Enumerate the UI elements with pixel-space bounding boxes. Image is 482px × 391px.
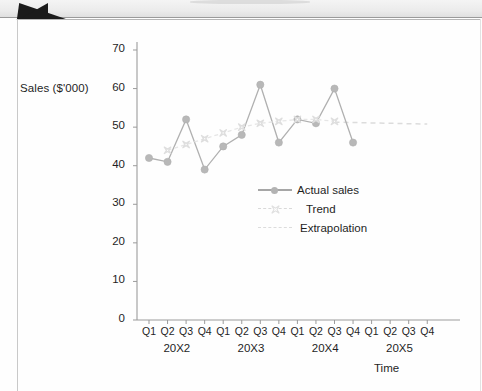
actual-sales-point bbox=[331, 85, 338, 92]
actual-sales-point bbox=[220, 143, 227, 150]
trend-point-marker bbox=[183, 141, 189, 147]
legend-label-trend: Trend bbox=[297, 203, 336, 215]
actual-sales-point bbox=[164, 158, 171, 165]
trend-point-marker bbox=[201, 135, 207, 141]
legend-label-extrapolation: Extrapolation bbox=[297, 222, 367, 234]
sales-trend-line-chart: Sales ($'000) Time 010203040506070 Q1Q2Q… bbox=[0, 0, 482, 391]
trend-line bbox=[168, 119, 335, 150]
actual-sales-point bbox=[201, 166, 208, 173]
chart-legend: Actual sales Trend Extrapolation bbox=[258, 181, 367, 238]
extrapolation-line bbox=[335, 122, 428, 124]
actual-sales-point bbox=[257, 81, 264, 88]
actual-sales-point bbox=[349, 139, 356, 146]
actual-sales-point bbox=[145, 154, 152, 161]
legend-label-actual-sales: Actual sales bbox=[297, 184, 359, 196]
actual-sales-line bbox=[149, 85, 353, 170]
actual-sales-point bbox=[183, 116, 190, 123]
legend-item-trend: Trend bbox=[258, 200, 367, 217]
legend-key-actual-sales-icon bbox=[258, 184, 292, 196]
actual-sales-point bbox=[275, 139, 282, 146]
legend-key-trend-icon bbox=[258, 203, 292, 215]
actual-sales-point bbox=[238, 131, 245, 138]
legend-key-extrapolation-icon bbox=[258, 222, 292, 234]
plot-area bbox=[0, 0, 482, 391]
trend-point-marker bbox=[220, 130, 226, 136]
trend-point-marker bbox=[164, 147, 170, 153]
legend-item-extrapolation: Extrapolation bbox=[258, 219, 367, 236]
legend-item-actual-sales: Actual sales bbox=[258, 181, 367, 198]
